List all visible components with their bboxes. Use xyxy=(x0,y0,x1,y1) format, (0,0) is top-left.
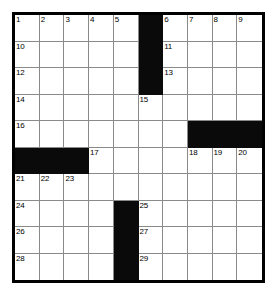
crossword-open-cell[interactable]: 22 xyxy=(40,174,65,201)
cell-number: 20 xyxy=(238,148,247,157)
crossword-open-cell[interactable]: 1 xyxy=(15,15,40,42)
crossword-open-cell[interactable] xyxy=(188,42,213,69)
crossword-open-cell[interactable] xyxy=(188,254,213,281)
crossword-open-cell[interactable]: 19 xyxy=(213,148,238,175)
cell-number: 25 xyxy=(140,201,149,210)
crossword-open-cell[interactable] xyxy=(213,201,238,228)
crossword-block-cell xyxy=(213,121,238,148)
crossword-open-cell[interactable] xyxy=(139,121,164,148)
crossword-open-cell[interactable] xyxy=(237,68,262,95)
crossword-open-cell[interactable] xyxy=(40,42,65,69)
crossword-open-cell[interactable] xyxy=(64,254,89,281)
crossword-open-cell[interactable]: 23 xyxy=(64,174,89,201)
crossword-open-cell[interactable] xyxy=(237,201,262,228)
crossword-block-cell xyxy=(64,148,89,175)
crossword-open-cell[interactable] xyxy=(40,121,65,148)
cell-number: 11 xyxy=(164,42,172,51)
crossword-open-cell[interactable]: 28 xyxy=(15,254,40,281)
crossword-open-cell[interactable]: 26 xyxy=(15,227,40,254)
crossword-open-cell[interactable]: 5 xyxy=(114,15,139,42)
crossword-open-cell[interactable]: 8 xyxy=(213,15,238,42)
crossword-open-cell[interactable] xyxy=(139,174,164,201)
crossword-open-cell[interactable] xyxy=(40,95,65,122)
crossword-open-cell[interactable] xyxy=(213,68,238,95)
crossword-open-cell[interactable] xyxy=(64,95,89,122)
crossword-open-cell[interactable] xyxy=(163,227,188,254)
crossword-open-cell[interactable] xyxy=(40,254,65,281)
crossword-open-cell[interactable]: 11 xyxy=(163,42,188,69)
crossword-block-cell xyxy=(15,148,40,175)
crossword-open-cell[interactable]: 2 xyxy=(40,15,65,42)
crossword-open-cell[interactable]: 20 xyxy=(237,148,262,175)
crossword-open-cell[interactable] xyxy=(213,95,238,122)
crossword-open-cell[interactable] xyxy=(40,227,65,254)
crossword-open-cell[interactable] xyxy=(213,42,238,69)
crossword-open-cell[interactable] xyxy=(64,42,89,69)
cell-number: 1 xyxy=(16,15,20,24)
crossword-grid[interactable]: 1234567891011121314151617181920212223242… xyxy=(12,12,265,283)
crossword-open-cell[interactable]: 16 xyxy=(15,121,40,148)
crossword-open-cell[interactable] xyxy=(213,227,238,254)
crossword-open-cell[interactable]: 6 xyxy=(163,15,188,42)
crossword-open-cell[interactable] xyxy=(114,68,139,95)
crossword-open-cell[interactable]: 27 xyxy=(139,227,164,254)
cell-number: 2 xyxy=(41,15,45,24)
crossword-open-cell[interactable] xyxy=(163,201,188,228)
crossword-open-cell[interactable] xyxy=(163,121,188,148)
crossword-open-cell[interactable] xyxy=(114,121,139,148)
crossword-open-cell[interactable] xyxy=(64,121,89,148)
crossword-open-cell[interactable] xyxy=(64,227,89,254)
crossword-open-cell[interactable]: 21 xyxy=(15,174,40,201)
crossword-open-cell[interactable] xyxy=(89,201,114,228)
crossword-open-cell[interactable] xyxy=(89,254,114,281)
crossword-open-cell[interactable] xyxy=(188,174,213,201)
crossword-open-cell[interactable] xyxy=(213,254,238,281)
crossword-open-cell[interactable] xyxy=(163,95,188,122)
cell-number: 23 xyxy=(65,174,74,183)
crossword-open-cell[interactable] xyxy=(89,42,114,69)
cell-number: 18 xyxy=(189,148,198,157)
crossword-open-cell[interactable] xyxy=(163,254,188,281)
crossword-open-cell[interactable] xyxy=(163,174,188,201)
crossword-open-cell[interactable] xyxy=(114,174,139,201)
crossword-open-cell[interactable]: 15 xyxy=(139,95,164,122)
crossword-open-cell[interactable] xyxy=(114,42,139,69)
crossword-open-cell[interactable] xyxy=(89,68,114,95)
crossword-open-cell[interactable] xyxy=(114,95,139,122)
crossword-open-cell[interactable] xyxy=(237,174,262,201)
crossword-open-cell[interactable] xyxy=(64,201,89,228)
crossword-open-cell[interactable] xyxy=(237,95,262,122)
crossword-open-cell[interactable]: 17 xyxy=(89,148,114,175)
crossword-open-cell[interactable]: 9 xyxy=(237,15,262,42)
crossword-open-cell[interactable] xyxy=(89,95,114,122)
crossword-open-cell[interactable]: 25 xyxy=(139,201,164,228)
crossword-open-cell[interactable] xyxy=(64,68,89,95)
crossword-open-cell[interactable]: 29 xyxy=(139,254,164,281)
crossword-open-cell[interactable]: 10 xyxy=(15,42,40,69)
cell-number: 4 xyxy=(90,15,94,24)
crossword-open-cell[interactable] xyxy=(237,254,262,281)
crossword-open-cell[interactable] xyxy=(163,148,188,175)
crossword-open-cell[interactable] xyxy=(139,148,164,175)
crossword-open-cell[interactable]: 18 xyxy=(188,148,213,175)
crossword-open-cell[interactable] xyxy=(188,95,213,122)
crossword-open-cell[interactable] xyxy=(89,121,114,148)
crossword-open-cell[interactable]: 24 xyxy=(15,201,40,228)
crossword-open-cell[interactable] xyxy=(114,148,139,175)
crossword-open-cell[interactable] xyxy=(40,201,65,228)
crossword-open-cell[interactable]: 4 xyxy=(89,15,114,42)
crossword-open-cell[interactable] xyxy=(188,227,213,254)
crossword-open-cell[interactable] xyxy=(237,42,262,69)
crossword-open-cell[interactable]: 14 xyxy=(15,95,40,122)
crossword-open-cell[interactable]: 12 xyxy=(15,68,40,95)
crossword-open-cell[interactable] xyxy=(188,68,213,95)
crossword-open-cell[interactable] xyxy=(89,227,114,254)
crossword-open-cell[interactable] xyxy=(89,174,114,201)
crossword-open-cell[interactable]: 13 xyxy=(163,68,188,95)
crossword-open-cell[interactable]: 7 xyxy=(188,15,213,42)
crossword-open-cell[interactable] xyxy=(237,227,262,254)
crossword-open-cell[interactable] xyxy=(213,174,238,201)
crossword-open-cell[interactable] xyxy=(188,201,213,228)
crossword-open-cell[interactable]: 3 xyxy=(64,15,89,42)
crossword-open-cell[interactable] xyxy=(40,68,65,95)
